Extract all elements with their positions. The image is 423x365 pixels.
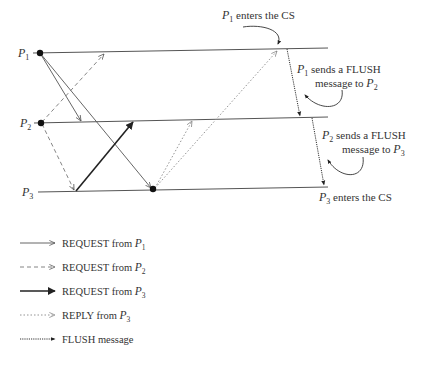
svg-text:REQUEST from P2: REQUEST from P2 (62, 261, 146, 276)
legend-item-request-p2: REQUEST from P2 (20, 261, 146, 276)
svg-text:P3: P3 (21, 185, 33, 201)
flush-p1-to-p2 (287, 49, 300, 116)
timeline-p2 (34, 117, 328, 123)
annotation-p1-sends-flush: P1 sends a FLUSH message to P2 (296, 62, 381, 106)
request-p1-to-p2 (40, 53, 81, 121)
svg-text:P1: P1 (17, 46, 29, 62)
svg-text:P3 enters the CS: P3 enters the CS (318, 190, 392, 206)
annotation-p2-sends-flush: P2 sends a FLUSH message to P3 (321, 128, 406, 175)
reply-p3-to-p1 (155, 51, 277, 188)
process-label-p3: P3 (21, 185, 33, 201)
curved-arrow-icon (243, 26, 279, 44)
request-p2-to-p3 (42, 124, 74, 190)
svg-text:P1 enters the CS: P1 enters the CS (221, 8, 295, 24)
process-label-p2: P2 (19, 116, 31, 132)
request-p3-to-p2 (76, 122, 133, 191)
timeline-p1 (33, 48, 328, 53)
svg-text:REQUEST from P1: REQUEST from P1 (62, 237, 146, 252)
timeline-p3 (38, 187, 328, 192)
svg-text:FLUSH message: FLUSH message (62, 334, 134, 345)
reply-p3-to-p2 (155, 121, 192, 188)
legend-item-request-p3: REQUEST from P3 (20, 285, 146, 300)
svg-text:message to P3: message to P3 (342, 142, 405, 158)
svg-text:message to P2: message to P2 (315, 76, 378, 92)
legend-item-flush: FLUSH message (20, 334, 134, 345)
space-time-diagram: P1 P2 P3 P1 enters the CS P1 sends a FLU… (0, 0, 423, 365)
legend-item-request-p1: REQUEST from P1 (20, 237, 146, 252)
legend: REQUEST from P1 REQUEST from P2 REQUEST … (20, 237, 146, 345)
event-dot-p3 (150, 186, 156, 192)
process-label-p1: P1 (17, 46, 29, 62)
curved-arrow-icon (328, 157, 363, 175)
legend-item-reply-p3: REPLY from P3 (20, 309, 131, 324)
event-dot-p1 (37, 50, 43, 56)
svg-text:P2: P2 (19, 116, 31, 132)
annotation-p1-enters-cs: P1 enters the CS (221, 8, 295, 44)
event-dot-p2 (38, 120, 44, 126)
request-p2-to-p1 (42, 54, 104, 122)
annotation-p3-enters-cs: P3 enters the CS (318, 190, 392, 206)
curved-arrow-icon (305, 90, 342, 106)
svg-text:REPLY from P3: REPLY from P3 (62, 309, 131, 324)
svg-text:REQUEST from P3: REQUEST from P3 (62, 285, 146, 300)
